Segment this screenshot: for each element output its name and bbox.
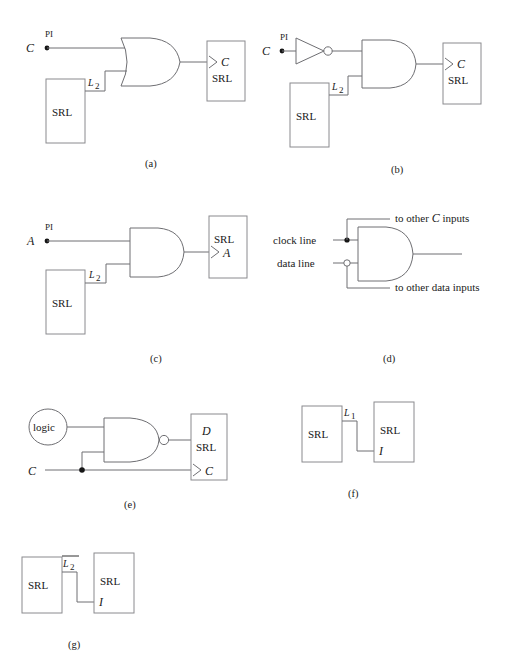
panel-d: clock line to other C inputs data line t… <box>273 211 480 365</box>
panel-d-top-branch-label-post: inputs <box>440 212 470 224</box>
panel-g-net-wire <box>62 572 94 602</box>
panel-c-pi-label: PI <box>45 222 53 232</box>
panel-d-bottom-branch-label: to other data inputs <box>395 281 480 293</box>
panel-g-right-srl-label: SRL <box>100 575 120 587</box>
panel-e-dest-srl-label: SRL <box>196 441 216 453</box>
panel-c-source-srl-label: SRL <box>52 297 72 309</box>
panel-c-feedback-label: L <box>88 269 95 280</box>
panel-b-input-signal-label: C <box>262 44 271 58</box>
panel-e-logic-label: logic <box>33 421 55 433</box>
panel-d-caption: (d) <box>383 353 396 365</box>
panel-b-feedback-label: L <box>331 81 338 92</box>
panel-c-dest-signal-label: A <box>222 246 231 260</box>
panel-e-nand-gate <box>104 418 159 462</box>
panel-f-net-wire <box>342 421 374 451</box>
panel-g-net-label-sub: 2 <box>70 562 75 572</box>
panel-f-caption: (f) <box>348 488 359 500</box>
panel-c-dest-srl-label: SRL <box>214 233 234 245</box>
panel-a-source-srl-label: SRL <box>52 106 72 118</box>
panel-b-caption: (b) <box>391 164 404 176</box>
panel-b-inverter-gate <box>296 38 324 64</box>
panel-a: C PI SRL L 2 C SRL (a) <box>26 29 245 170</box>
panel-d-top-branch-label: to other C inputs <box>395 211 469 225</box>
panel-a-dest-srl-box <box>207 41 245 101</box>
panel-d-and-gate <box>358 227 413 281</box>
panel-g-left-srl-label: SRL <box>28 579 48 591</box>
panel-a-feedback-label-sub: 2 <box>95 81 100 91</box>
panel-c-and-gate <box>130 228 184 277</box>
panel-e-input-signal-label: C <box>28 464 37 478</box>
panel-a-input-signal-label: C <box>26 41 35 55</box>
panel-e-dest-c-label: C <box>205 464 214 478</box>
panel-f: SRL L 1 SRL I (f) <box>302 402 414 500</box>
panel-f-net-label: L <box>343 407 350 418</box>
panel-e-c-branch-wire <box>82 452 104 470</box>
figure-sheet: C PI SRL L 2 C SRL (a) C PI SR <box>0 0 507 664</box>
panel-b-dest-srl-label: SRL <box>448 74 468 86</box>
panel-c: A PI SRL L 2 SRL A (c) <box>26 216 247 365</box>
panel-d-data-junction-open-circle-icon <box>344 260 350 266</box>
panel-f-right-srl-label: SRL <box>380 424 400 436</box>
panel-c-feedback-label-sub: 2 <box>96 273 101 283</box>
panel-b-pi-label: PI <box>280 32 288 42</box>
panel-d-clock-line-label: clock line <box>273 234 316 246</box>
panel-a-dest-srl-label: SRL <box>212 72 232 84</box>
panel-e-c-junction-dot <box>79 467 85 473</box>
panel-b: C PI SRL L 2 C SRL (b) <box>262 32 481 176</box>
panel-b-and-gate <box>362 40 416 88</box>
panel-d-data-line-label: data line <box>277 257 315 269</box>
panel-c-input-signal-label: A <box>26 234 35 248</box>
panel-b-feedback-label-sub: 2 <box>339 85 344 95</box>
panel-e-nand-bubble-icon <box>159 435 168 444</box>
panel-e: logic C D SRL C (e) <box>28 409 227 511</box>
panel-b-inverter-bubble-icon <box>324 47 332 55</box>
panel-e-dest-d-label: D <box>201 424 211 438</box>
panel-f-net-label-sub: 1 <box>351 411 356 421</box>
panel-a-feedback-label: L <box>87 77 94 88</box>
panel-a-dest-signal-label: C <box>221 55 230 69</box>
panel-e-caption: (e) <box>124 499 136 511</box>
panel-a-pi-label: PI <box>45 29 53 39</box>
panel-a-caption: (a) <box>145 158 157 170</box>
panel-b-source-srl-label: SRL <box>296 110 316 122</box>
panel-g-caption: (g) <box>68 639 81 651</box>
logic-diagram-svg: C PI SRL L 2 C SRL (a) C PI SR <box>0 0 507 664</box>
panel-f-left-srl-label: SRL <box>308 428 328 440</box>
panel-a-or-gate <box>121 38 180 86</box>
panel-b-dest-signal-label: C <box>457 57 466 71</box>
panel-g: SRL L 2 SRL I (g) <box>22 553 134 651</box>
panel-d-top-branch-label-pre: to other <box>395 212 432 224</box>
panel-g-net-label: L <box>62 558 69 569</box>
panel-c-caption: (c) <box>150 353 162 365</box>
